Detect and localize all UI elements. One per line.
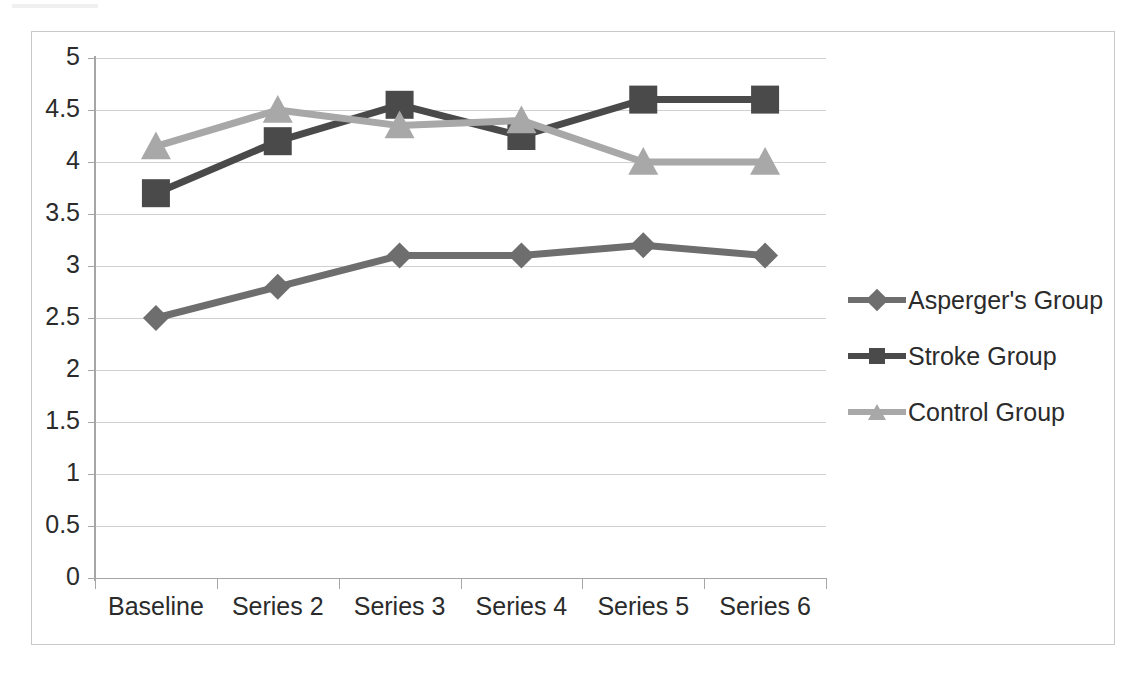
y-axis-tick <box>88 214 95 215</box>
y-axis-labels: 54.543.532.521.510.50 <box>0 0 80 677</box>
y-axis-label: 3 <box>66 252 80 277</box>
x-axis-label: Series 3 <box>354 592 446 621</box>
x-axis-label: Baseline <box>108 592 204 621</box>
legend-swatch <box>848 289 906 311</box>
legend-label: Control Group <box>908 398 1065 427</box>
x-axis-tick <box>826 578 827 589</box>
legend-marker-diamond <box>866 289 889 312</box>
gridline <box>95 162 826 163</box>
legend-marker-square <box>869 348 885 364</box>
y-axis-tick <box>88 578 95 579</box>
y-axis-label: 2.5 <box>45 304 80 329</box>
legend-marker-triangle <box>868 404 886 420</box>
legend-swatch <box>848 401 906 423</box>
y-axis-tick <box>88 474 95 475</box>
y-axis-tick <box>88 318 95 319</box>
x-axis-label: Series 6 <box>719 592 811 621</box>
x-axis-tick <box>339 578 340 589</box>
y-axis-label: 5 <box>66 44 80 69</box>
x-axis-tick <box>461 578 462 589</box>
gridline <box>95 526 826 527</box>
legend-item-square[interactable]: Stroke Group <box>848 328 1098 384</box>
y-axis-tick <box>88 162 95 163</box>
y-axis-tick <box>88 58 95 59</box>
x-axis-label: Series 5 <box>597 592 689 621</box>
x-axis-tick <box>95 578 96 589</box>
y-axis-label: 1.5 <box>45 408 80 433</box>
gridline <box>95 110 826 111</box>
y-axis-label: 4 <box>66 148 80 173</box>
y-axis-label: 3.5 <box>45 200 80 225</box>
y-axis-tick <box>88 110 95 111</box>
legend-label: Asperger's Group <box>908 286 1103 315</box>
y-axis-tick <box>88 266 95 267</box>
x-axis-tick <box>704 578 705 589</box>
y-axis-tick <box>88 422 95 423</box>
gridline <box>95 422 826 423</box>
y-axis-tick <box>88 526 95 527</box>
chart-legend: Asperger's GroupStroke GroupControl Grou… <box>848 272 1098 440</box>
legend-swatch <box>848 345 906 367</box>
gridline <box>95 214 826 215</box>
y-axis-label: 0 <box>66 564 80 589</box>
gridline <box>95 318 826 319</box>
gridline <box>95 58 826 59</box>
x-axis-label: Series 2 <box>232 592 324 621</box>
legend-item-triangle[interactable]: Control Group <box>848 384 1098 440</box>
gridline <box>95 266 826 267</box>
line-chart: 54.543.532.521.510.50 BaselineSeries 2Se… <box>0 0 1144 677</box>
legend-label: Stroke Group <box>908 342 1057 371</box>
y-axis-label: 4.5 <box>45 96 80 121</box>
y-axis-label: 0.5 <box>45 512 80 537</box>
y-axis-label: 1 <box>66 460 80 485</box>
y-axis-tick <box>88 370 95 371</box>
x-axis-tick <box>582 578 583 589</box>
y-axis-label: 2 <box>66 356 80 381</box>
gridline <box>95 370 826 371</box>
x-axis-label: Series 4 <box>476 592 568 621</box>
legend-item-diamond[interactable]: Asperger's Group <box>848 272 1098 328</box>
x-axis-tick <box>217 578 218 589</box>
gridline <box>95 474 826 475</box>
